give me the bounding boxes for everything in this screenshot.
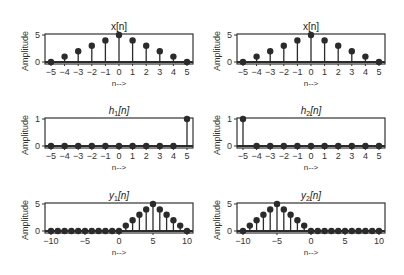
stem-marker [253, 217, 259, 223]
subplot-title: x[n] [303, 21, 319, 32]
y-axis-label: Amplitude [212, 200, 222, 240]
stem-marker [48, 59, 54, 65]
stem-marker [315, 228, 321, 234]
y-tick-label: 0 [35, 226, 40, 236]
stem-marker [349, 143, 355, 149]
stem-marker [129, 217, 135, 223]
x-tick-label: 0 [308, 151, 313, 161]
stem-marker [61, 228, 67, 234]
x-axis-label: n--> [304, 248, 319, 257]
stem-marker [61, 143, 67, 149]
x-tick-label: 1 [130, 67, 135, 77]
stem-marker [260, 212, 266, 218]
stem-plot-figure: 05−5−4−3−2−1012345x[n]n-->Amplitude05−5−… [0, 0, 404, 275]
stem-marker [362, 143, 368, 149]
y-tick-label: 0 [227, 226, 232, 236]
stem-marker [129, 37, 135, 43]
stem-marker [123, 222, 129, 228]
x-tick-label: 10 [374, 236, 384, 246]
stem-marker [335, 228, 341, 234]
x-tick-label: −4 [59, 151, 69, 161]
stem-marker [184, 59, 190, 65]
stem-marker [349, 228, 355, 234]
x-tick-label: −1 [100, 67, 110, 77]
y-tick-label: 0 [227, 141, 232, 151]
x-tick-label: 1 [322, 67, 327, 77]
stem-marker [267, 143, 273, 149]
stem-marker [136, 212, 142, 218]
stem-marker [253, 53, 259, 59]
x-tick-label: 4 [363, 151, 368, 161]
stem-marker [82, 228, 88, 234]
stem-marker [376, 59, 382, 65]
stem-marker [129, 143, 135, 149]
x-tick-label: −1 [292, 151, 302, 161]
stem-marker [143, 206, 149, 212]
stem-marker [95, 228, 101, 234]
stem-marker [281, 143, 287, 149]
x-tick-label: 0 [308, 236, 313, 246]
subplot-5: 05−10−50510y1[n]n-->Amplitude [20, 190, 193, 257]
stem-marker [102, 37, 108, 43]
x-tick-label: −2 [87, 151, 97, 161]
stem-marker [376, 143, 382, 149]
x-tick-label: −4 [251, 67, 261, 77]
stem-marker [89, 43, 95, 49]
stem-marker [102, 228, 108, 234]
stem-marker [61, 53, 67, 59]
x-tick-label: 5 [376, 151, 381, 161]
stem-marker [170, 143, 176, 149]
subplot-1: 05−5−4−3−2−1012345x[n]n-->Amplitude [20, 21, 193, 88]
x-tick-label: 1 [130, 151, 135, 161]
x-tick-label: −3 [265, 67, 275, 77]
x-tick-label: −10 [235, 236, 250, 246]
x-axis-label: n--> [304, 79, 319, 88]
y-tick-label: 0 [35, 57, 40, 67]
y-tick-label: 1 [35, 114, 40, 124]
stem-marker [362, 53, 368, 59]
subplot-title: h1[n] [109, 105, 130, 117]
x-tick-label: −1 [292, 67, 302, 77]
x-tick-label: −2 [87, 67, 97, 77]
x-tick-label: −4 [251, 151, 261, 161]
stem-marker [143, 143, 149, 149]
x-tick-label: −10 [43, 236, 58, 246]
stem-marker [321, 228, 327, 234]
stem-marker [267, 48, 273, 54]
x-tick-label: −5 [80, 236, 90, 246]
x-tick-label: −5 [238, 67, 248, 77]
x-tick-label: 2 [336, 151, 341, 161]
stem-marker [184, 228, 190, 234]
stem-marker [349, 48, 355, 54]
stem-marker [355, 228, 361, 234]
x-tick-label: 4 [171, 151, 176, 161]
stem-marker [116, 228, 122, 234]
stem-marker [342, 228, 348, 234]
x-tick-label: 3 [349, 67, 354, 77]
x-tick-label: 0 [308, 67, 313, 77]
x-axis-label: n--> [112, 79, 127, 88]
stem-marker [170, 217, 176, 223]
stem-marker [281, 43, 287, 49]
stem-marker [184, 116, 190, 122]
subplot-3: 01−5−4−3−2−1012345h1[n]n-->Amplitude [20, 105, 193, 172]
x-tick-label: 5 [184, 67, 189, 77]
x-tick-label: 2 [336, 67, 341, 77]
x-tick-label: 0 [116, 151, 121, 161]
y-tick-label: 5 [227, 199, 232, 209]
x-tick-label: 0 [116, 236, 121, 246]
x-tick-label: 3 [349, 151, 354, 161]
x-tick-label: −3 [73, 151, 83, 161]
x-tick-label: −5 [46, 67, 56, 77]
stem-marker [328, 228, 334, 234]
stem-marker [143, 43, 149, 49]
stem-marker [335, 43, 341, 49]
stem-marker [157, 48, 163, 54]
x-tick-label: −5 [238, 151, 248, 161]
stem-marker [376, 228, 382, 234]
stem-marker [362, 228, 368, 234]
x-tick-label: 3 [157, 67, 162, 77]
x-tick-label: −2 [279, 67, 289, 77]
y-axis-label: Amplitude [212, 31, 222, 71]
x-tick-label: 2 [144, 67, 149, 77]
